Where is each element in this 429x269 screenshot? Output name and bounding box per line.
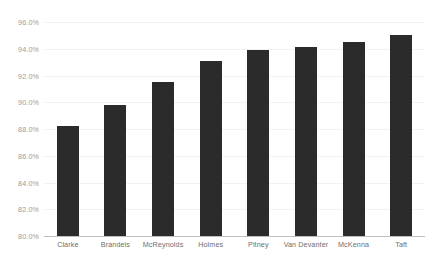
x-axis: ClarkeBrandeisMcReynoldsHolmesPitneyVan …: [44, 238, 425, 262]
bar-slot: [330, 22, 378, 236]
gridline: [44, 236, 425, 237]
y-axis-tick-label: 94.0%: [18, 44, 39, 53]
bar: [57, 126, 79, 236]
bar-slot: [187, 22, 235, 236]
x-axis-tick-label: Clarke: [44, 238, 92, 262]
bar: [343, 42, 365, 236]
y-axis-tick-label: 80.0%: [18, 232, 39, 241]
y-axis-tick-label: 88.0%: [18, 125, 39, 134]
bar: [390, 35, 412, 236]
bar-series: [44, 22, 425, 236]
bar-slot: [377, 22, 425, 236]
bar-slot: [139, 22, 187, 236]
x-axis-tick-label: Brandeis: [92, 238, 140, 262]
bar: [152, 82, 174, 236]
bar-slot: [92, 22, 140, 236]
y-axis-tick-label: 96.0%: [18, 18, 39, 27]
y-axis-tick-label: 82.0%: [18, 205, 39, 214]
bar: [104, 105, 126, 236]
bar-slot: [44, 22, 92, 236]
y-axis-tick-label: 84.0%: [18, 178, 39, 187]
bar-slot: [235, 22, 283, 236]
bar: [247, 50, 269, 236]
bar-slot: [282, 22, 330, 236]
bar-chart: 96.0%94.0%92.0%90.0%88.0%86.0%84.0%82.0%…: [0, 0, 429, 269]
y-axis-tick-label: 90.0%: [18, 98, 39, 107]
plot-area: [44, 22, 425, 236]
bar: [200, 61, 222, 236]
y-axis-tick-label: 86.0%: [18, 151, 39, 160]
x-axis-tick-label: McReynolds: [139, 238, 187, 262]
x-axis-tick-label: Taft: [377, 238, 425, 262]
bar: [295, 47, 317, 236]
x-axis-tick-label: Pitney: [235, 238, 283, 262]
y-axis: 96.0%94.0%92.0%90.0%88.0%86.0%84.0%82.0%…: [0, 0, 44, 269]
x-axis-tick-label: Van Devanter: [282, 238, 330, 262]
x-axis-tick-label: Holmes: [187, 238, 235, 262]
x-axis-tick-label: McKenna: [330, 238, 378, 262]
y-axis-tick-label: 92.0%: [18, 71, 39, 80]
